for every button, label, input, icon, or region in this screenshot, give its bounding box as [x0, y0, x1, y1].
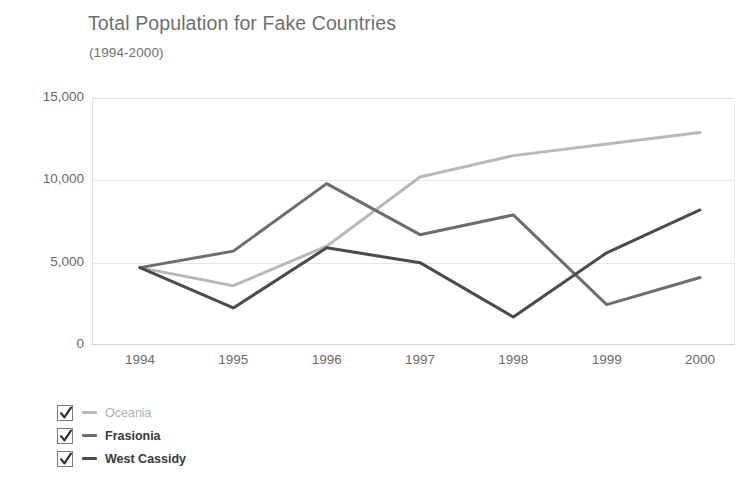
legend: OceaniaFrasioniaWest Cassidy [57, 401, 357, 470]
check-icon [59, 452, 73, 467]
legend-checkbox-oceania[interactable] [57, 405, 73, 421]
legend-item-oceania[interactable]: Oceania [57, 401, 357, 424]
y-axis-tick-label: 10,000 [4, 171, 84, 186]
y-axis-tick-label: 5,000 [4, 254, 84, 269]
legend-item-west-cassidy[interactable]: West Cassidy [57, 447, 357, 470]
y-axis-tick-label: 0 [4, 336, 84, 351]
x-axis-tick-label: 1997 [405, 352, 435, 367]
legend-item-frasionia[interactable]: Frasionia [57, 424, 357, 447]
chart-subtitle: (1994-2000) [89, 45, 164, 60]
y-axis-tick-label: 15,000 [4, 89, 84, 104]
legend-swatch-frasionia [82, 434, 97, 437]
x-axis-tick-label: 2000 [685, 352, 715, 367]
check-icon [59, 406, 73, 421]
x-axis-tick-label: 1996 [312, 352, 342, 367]
y-axis-tick-labels: 05,00010,00015,000 [0, 98, 84, 345]
series-lines [92, 98, 735, 345]
x-axis-tick-label: 1999 [592, 352, 622, 367]
chart-container: Total Population for Fake Countries (199… [0, 0, 755, 504]
check-icon [59, 429, 73, 444]
legend-swatch-oceania [82, 411, 97, 414]
x-axis-tick-label: 1995 [218, 352, 248, 367]
series-line-frasionia [140, 184, 700, 305]
legend-swatch-west-cassidy [82, 457, 97, 460]
x-axis-tick-labels: 1994199519961997199819992000 [92, 352, 735, 374]
legend-label: Frasionia [105, 429, 161, 443]
chart-title: Total Population for Fake Countries [88, 12, 396, 35]
x-axis-tick-label: 1994 [125, 352, 155, 367]
legend-label: West Cassidy [105, 452, 186, 466]
x-axis-tick-label: 1998 [498, 352, 528, 367]
legend-checkbox-west-cassidy[interactable] [57, 451, 73, 467]
legend-label: Oceania [105, 406, 152, 420]
legend-checkbox-frasionia[interactable] [57, 428, 73, 444]
plot-area [92, 98, 735, 345]
